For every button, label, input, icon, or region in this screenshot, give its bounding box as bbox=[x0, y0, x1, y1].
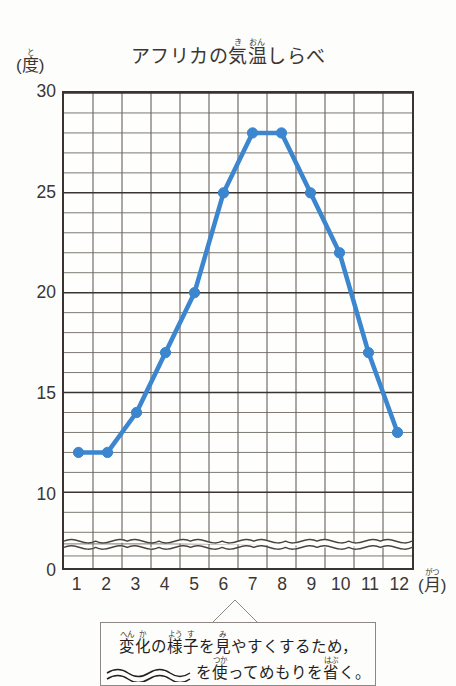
x-tick-label-9: 9 bbox=[296, 574, 326, 595]
x-tick-label-6: 6 bbox=[208, 574, 238, 595]
c1-seg-5: を bbox=[199, 638, 215, 655]
x-tick-label-4: 4 bbox=[150, 574, 180, 595]
x-tick-label-11: 11 bbox=[355, 574, 385, 595]
x-axis-unit-label: (月がつ) bbox=[418, 568, 446, 596]
x-unit-ruby: がつ bbox=[424, 568, 441, 577]
c1-seg-0: 変へん bbox=[119, 638, 135, 655]
y-tick-label-0: 0 bbox=[18, 560, 56, 581]
wave-break-symbol-icon bbox=[106, 668, 192, 682]
x-unit-kanji: 月がつ bbox=[424, 576, 441, 595]
c2-seg-0: を bbox=[196, 664, 212, 681]
callout-line-2: を使つかってめもりを省はぶく。 bbox=[101, 656, 375, 682]
c2-seg-3: 省はぶ bbox=[323, 664, 339, 681]
callout-pointer bbox=[210, 598, 260, 624]
callout-line-1: 変へん化かの様よう子すを見みやすくするため， bbox=[101, 630, 375, 656]
y-axis-tick-labels: 01015202530 bbox=[0, 91, 456, 570]
x-tick-label-3: 3 bbox=[120, 574, 150, 595]
c1-seg-4: 子す bbox=[183, 638, 199, 655]
title-seg-3: しらべ bbox=[267, 46, 326, 67]
callout-box: 変へん化かの様よう子すを見みやすくするため， を使つかってめもりを省はぶく。 bbox=[100, 622, 376, 686]
y-tick-label-25: 25 bbox=[18, 182, 56, 203]
title-ruby-ki: き bbox=[228, 38, 248, 47]
y-tick-label-15: 15 bbox=[18, 383, 56, 404]
x-unit-paren-close: ) bbox=[441, 576, 447, 595]
c1-seg-3: 様よう bbox=[167, 638, 183, 655]
c1-seg-2: の bbox=[151, 638, 167, 655]
title-seg-0: アフリカの bbox=[131, 46, 229, 67]
y-tick-label-10: 10 bbox=[18, 484, 56, 505]
c1-seg-1: 化か bbox=[135, 638, 151, 655]
x-tick-label-12: 12 bbox=[384, 574, 414, 595]
y-tick-label-20: 20 bbox=[18, 282, 56, 303]
y-tick-label-30: 30 bbox=[18, 81, 56, 102]
x-axis-tick-labels: 123456789101112 bbox=[62, 574, 414, 600]
x-tick-label-5: 5 bbox=[179, 574, 209, 595]
title-seg-2: 温おん bbox=[248, 46, 268, 67]
x-tick-label-8: 8 bbox=[267, 574, 297, 595]
y-axis-unit-label: (度と) bbox=[16, 48, 44, 76]
chart-figure: (度と) アフリカの気き温おんしらべ 01015202530 123456789… bbox=[0, 0, 456, 686]
title-seg-1: 気き bbox=[228, 46, 248, 67]
y-unit-paren-close: ) bbox=[39, 56, 45, 75]
c1-seg-6: 見み bbox=[215, 638, 231, 655]
x-tick-label-1: 1 bbox=[62, 574, 92, 595]
x-tick-label-10: 10 bbox=[326, 574, 356, 595]
c2-seg-4: く。 bbox=[339, 664, 371, 681]
y-unit-ruby: と bbox=[22, 48, 39, 57]
c1-seg-7: やすくするため， bbox=[231, 638, 358, 655]
c2-seg-2: ってめもりを bbox=[228, 664, 323, 681]
x-tick-label-7: 7 bbox=[238, 574, 268, 595]
title-ruby-on: おん bbox=[248, 38, 268, 47]
chart-title: アフリカの気き温おんしらべ bbox=[108, 38, 348, 68]
c2-seg-1: 使つか bbox=[212, 664, 228, 681]
y-unit-kanji: 度と bbox=[22, 56, 39, 75]
x-tick-label-2: 2 bbox=[91, 574, 121, 595]
